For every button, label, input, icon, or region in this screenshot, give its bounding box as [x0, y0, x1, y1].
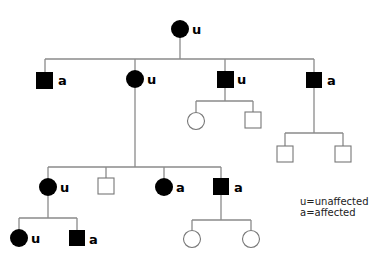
individual-IV-3-female-symbol — [184, 231, 201, 248]
individual-II-1-male-symbol — [36, 72, 53, 89]
status-label-II-2: u — [147, 72, 156, 87]
individual-III-5-female-symbol — [39, 178, 57, 196]
status-label-I-1: u — [192, 22, 201, 37]
pedigree-diagram: u a u u a u a a u a — [0, 0, 377, 258]
connector-lines — [19, 29, 343, 230]
status-label-IV-1: u — [31, 231, 40, 246]
status-label-II-1: a — [58, 73, 67, 88]
individual-IV-2-male-symbol — [69, 230, 85, 246]
individual-III-4-male-symbol — [335, 146, 351, 162]
legend: u=unaffected a=affected — [300, 196, 368, 218]
individual-III-8-male-symbol — [213, 178, 229, 195]
status-label-III-7: a — [176, 180, 185, 195]
status-label-III-8: a — [234, 180, 243, 195]
individual-II-4-male-symbol — [306, 72, 322, 88]
individual-III-6-male-symbol — [98, 178, 114, 194]
status-label-II-3: u — [237, 72, 246, 87]
individual-III-1-female-symbol — [188, 113, 205, 130]
individual-I-1-female-affected-symbol — [171, 20, 189, 38]
legend-affected: a=affected — [300, 207, 368, 218]
individual-II-3-male-symbol — [217, 71, 234, 88]
individual-III-2-male-symbol — [245, 112, 261, 128]
individual-III-3-male-symbol — [277, 146, 293, 162]
individual-IV-4-female-symbol — [243, 231, 260, 248]
status-label-II-4: a — [327, 73, 336, 88]
status-label-IV-2: a — [89, 232, 98, 247]
individual-III-7-female-symbol — [155, 178, 173, 196]
status-label-III-5: u — [60, 180, 69, 195]
legend-unaffected: u=unaffected — [300, 196, 368, 207]
individual-IV-1-female-symbol — [10, 229, 28, 247]
individual-II-2-female-symbol — [126, 70, 144, 88]
